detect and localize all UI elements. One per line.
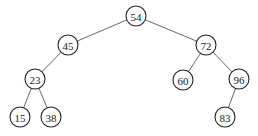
tree-edge bbox=[213, 52, 232, 72]
node-label: 23 bbox=[30, 74, 42, 86]
tree-edge bbox=[77, 20, 127, 41]
tree-edge bbox=[228, 88, 235, 107]
node-label: 96 bbox=[234, 74, 246, 86]
tree-node: 45 bbox=[58, 35, 78, 55]
tree-node: 60 bbox=[173, 70, 193, 90]
tree-edge bbox=[39, 88, 47, 108]
tree-edge bbox=[145, 20, 197, 41]
tree-node: 72 bbox=[196, 35, 216, 55]
node-label: 60 bbox=[178, 75, 190, 87]
node-label: 83 bbox=[220, 112, 232, 124]
tree-node: 23 bbox=[25, 69, 45, 89]
tree-node: 83 bbox=[215, 107, 235, 127]
tree-node: 54 bbox=[126, 6, 146, 26]
tree-edge bbox=[42, 52, 61, 72]
node-label: 38 bbox=[46, 112, 58, 124]
node-label: 45 bbox=[63, 40, 75, 52]
edges-layer bbox=[24, 20, 236, 108]
node-label: 54 bbox=[131, 11, 143, 23]
tree-edge bbox=[24, 88, 32, 107]
tree-edge bbox=[188, 53, 200, 71]
nodes-layer: 544572236096153883 bbox=[10, 6, 249, 127]
node-label: 72 bbox=[201, 40, 212, 52]
tree-node: 15 bbox=[10, 107, 30, 127]
tree-node: 96 bbox=[229, 69, 249, 89]
tree-node: 38 bbox=[41, 107, 61, 127]
node-label: 15 bbox=[15, 112, 27, 124]
tree-diagram: 544572236096153883 bbox=[0, 0, 258, 136]
